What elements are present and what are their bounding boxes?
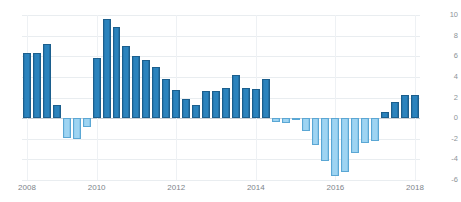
bar [172, 90, 180, 118]
x-axis-tick-label: 2014 [247, 184, 265, 192]
bar [391, 102, 399, 119]
y-axis-tick-label: 4 [454, 73, 458, 81]
bar [53, 105, 61, 118]
y-axis-tick-label: 8 [454, 32, 458, 40]
bar [331, 118, 339, 176]
bar [262, 79, 270, 118]
gridline--4 [22, 159, 420, 160]
bar [83, 118, 91, 127]
y-axis: 1086420-2-4-6 [420, 0, 461, 202]
y-axis-tick-label: -6 [451, 176, 458, 184]
y-axis-tick-label: 2 [454, 94, 458, 102]
bar [113, 27, 121, 118]
bar [23, 53, 31, 118]
bar [43, 44, 51, 118]
bar [381, 112, 389, 118]
bar [63, 118, 71, 138]
x-axis-tick-label: 2008 [18, 184, 36, 192]
bar [411, 95, 419, 118]
bar [401, 95, 409, 118]
bar [152, 67, 160, 119]
bar [232, 75, 240, 118]
y-axis-tick-label: 6 [454, 52, 458, 60]
gridline-4 [22, 77, 420, 78]
bar [132, 56, 140, 118]
bar [272, 118, 280, 122]
y-axis-tick-label: -2 [451, 135, 458, 143]
bar [192, 105, 200, 118]
bar [242, 88, 250, 118]
bar [202, 91, 210, 118]
bar [252, 89, 260, 118]
bar [212, 91, 220, 118]
x-axis-tick-label: 2012 [167, 184, 185, 192]
bar [73, 118, 81, 139]
bar [341, 118, 349, 172]
bar [321, 118, 329, 161]
x-axis-tick-label: 2010 [88, 184, 106, 192]
bar [222, 88, 230, 118]
bar [292, 118, 300, 120]
gridline-10 [22, 15, 420, 16]
gridline-6 [22, 56, 420, 57]
bar [351, 118, 359, 153]
plot-area [22, 15, 420, 180]
bar [142, 60, 150, 118]
bar [122, 46, 130, 118]
bar [371, 118, 379, 141]
y-axis-tick-label: 10 [450, 11, 458, 19]
bar [103, 19, 111, 118]
chart-container: 1086420-2-4-6 200820102012201420162018 [0, 0, 461, 202]
bar [361, 118, 369, 143]
x-axis-tick-label: 2016 [327, 184, 345, 192]
y-axis-tick-label: 0 [454, 114, 458, 122]
gridline--6 [22, 180, 420, 181]
gridline-8 [22, 36, 420, 37]
bar [162, 79, 170, 118]
bar [93, 58, 101, 118]
bar [282, 118, 290, 123]
y-axis-tick-label: -4 [451, 155, 458, 163]
bar [312, 118, 320, 145]
bar [33, 53, 41, 118]
bar [182, 99, 190, 119]
bar [302, 118, 310, 130]
